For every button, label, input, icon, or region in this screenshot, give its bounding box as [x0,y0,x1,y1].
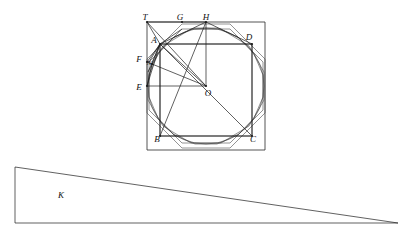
auxiliary-triangle-k [15,167,398,223]
vertex-label-h: H [202,12,210,22]
vertex-label-e: E [135,82,142,92]
triangle-k-label: K [57,190,65,200]
vertex-point-n [151,63,153,65]
vertex-label-f: F [135,54,142,64]
vertex-label-o: O [205,88,212,98]
vertex-label-d: D [245,32,253,42]
vertex-point-e [146,85,148,87]
vertex-label-t: T [142,12,148,22]
vertex-point-d [251,43,253,45]
vertex-point-c [251,135,253,137]
vertex-point-t [146,21,148,23]
vertex-label-a: A [150,35,157,45]
vertex-point-o [205,85,207,87]
construction-line [160,22,206,44]
construction-lines-group [147,22,252,136]
vertex-labels-group: TGHDAFNEOBC [135,12,257,144]
vertex-point-b [159,135,161,137]
vertex-label-n: N [146,59,152,67]
vertex-point-g [181,21,183,23]
geometry-figure-container: TGHDAFNEOBC K [0,0,412,239]
vertex-point-a [159,43,161,45]
vertex-point-h [205,21,207,23]
vertex-label-g: G [177,12,184,22]
geometry-figure-canvas: TGHDAFNEOBC K [0,0,412,239]
